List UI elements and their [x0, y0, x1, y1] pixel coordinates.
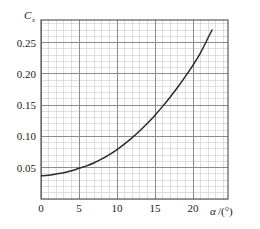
y-tick-label: 0.25 [17, 37, 37, 49]
chart-background [0, 0, 260, 229]
y-tick-label: 0.05 [17, 162, 37, 174]
x-tick-label: 20 [188, 202, 200, 214]
y-tick-label: 0.20 [17, 68, 37, 80]
y-tick-label: 0.10 [17, 130, 37, 142]
x-tick-label: 5 [76, 202, 82, 214]
drag-coefficient-chart: 05101520 0.050.100.150.200.25 C x α /(°) [0, 0, 260, 229]
y-axis-title-symbol: C [24, 9, 32, 21]
y-tick-label: 0.15 [17, 99, 37, 111]
x-tick-label: 0 [38, 202, 44, 214]
x-axis-title-symbol: α [210, 205, 216, 217]
figure-container: 05101520 0.050.100.150.200.25 C x α /(°) [0, 0, 260, 229]
x-axis-title: α /(°) [210, 205, 233, 218]
x-axis-title-unit: /(°) [218, 205, 233, 218]
x-tick-label: 15 [150, 202, 162, 214]
x-tick-label: 10 [112, 202, 124, 214]
